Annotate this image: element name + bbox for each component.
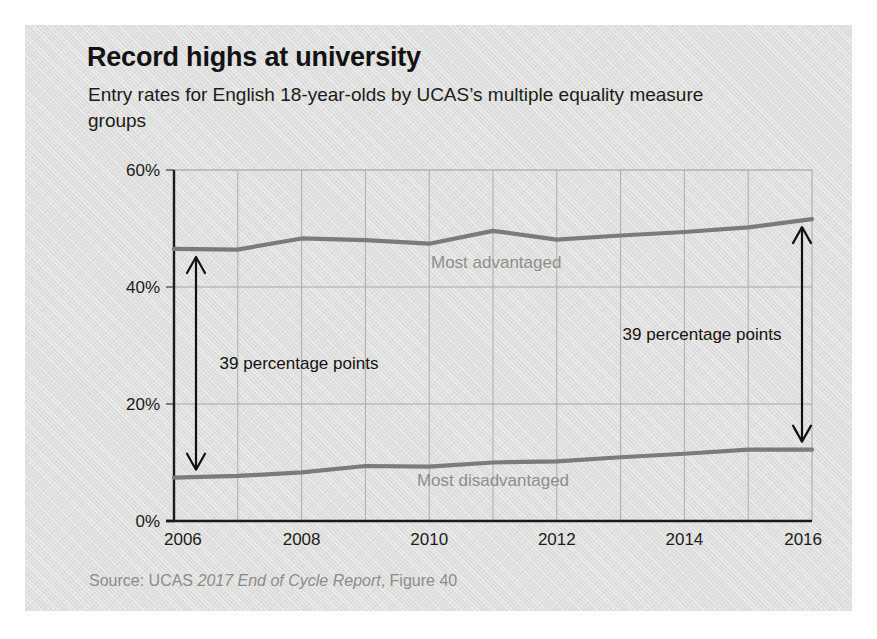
x-axis-tick-labels: 200620082010201220142016 [164, 530, 822, 549]
y-tick-label-60%: 60% [126, 161, 160, 180]
line-chart-svg: 0%20%40%60% 200620082010201220142016 Mos… [25, 25, 852, 611]
figure-card: Record highs at university Entry rates f… [25, 25, 852, 611]
source-report-title: 2017 End of Cycle Report [197, 572, 380, 589]
source-prefix: Source: UCAS [89, 572, 197, 589]
left-gap-label: 39 percentage points [220, 354, 379, 373]
y-axis-tick-labels: 0%20%40%60% [126, 161, 174, 531]
right-gap-label: 39 percentage points [623, 325, 782, 344]
y-tick-label-0%: 0% [135, 512, 160, 531]
y-tick-label-40%: 40% [126, 278, 160, 297]
chart-x-gridlines [238, 170, 748, 521]
x-tick-label-2008: 2008 [283, 530, 321, 549]
series-label-most-advantaged: Most advantaged [431, 253, 561, 272]
x-tick-label-2012: 2012 [538, 530, 576, 549]
y-tick-label-20%: 20% [126, 395, 160, 414]
chart-annotation-texts: 39 percentage points39 percentage points [220, 325, 782, 373]
series-label-most-disadvantaged: Most disadvantaged [417, 471, 569, 490]
x-tick-label-2014: 2014 [665, 530, 703, 549]
chart-plot-area: 0%20%40%60% 200620082010201220142016 Mos… [25, 25, 852, 611]
x-tick-label-2006: 2006 [164, 530, 202, 549]
x-tick-label-2010: 2010 [410, 530, 448, 549]
source-suffix: , Figure 40 [381, 572, 457, 589]
x-tick-label-2016: 2016 [784, 530, 822, 549]
chart-source-note: Source: UCAS 2017 End of Cycle Report, F… [89, 572, 457, 590]
